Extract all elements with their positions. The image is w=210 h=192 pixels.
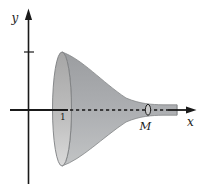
point-m-label: M <box>139 119 153 133</box>
x-axis-arrowhead <box>186 106 197 113</box>
cross-section-disk <box>145 104 150 115</box>
y-axis-label: y <box>11 11 19 25</box>
x-axis-label: x <box>187 115 194 129</box>
y-axis-arrowhead <box>25 9 32 21</box>
horn-mouth-face <box>53 52 72 166</box>
horn-body <box>62 52 177 166</box>
horn-diagram-canvas: y x 1 M <box>0 0 210 192</box>
figure-gabriels-horn: y x 1 M <box>0 0 210 192</box>
x-tick-one-label: 1 <box>60 112 66 122</box>
